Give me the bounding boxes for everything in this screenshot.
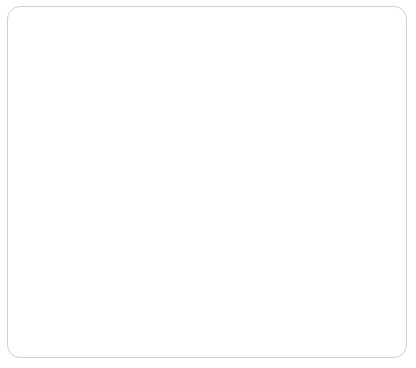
chart-container: 9697989910010110210310410520122013201420… xyxy=(0,0,416,368)
chart-frame-border xyxy=(7,6,407,358)
